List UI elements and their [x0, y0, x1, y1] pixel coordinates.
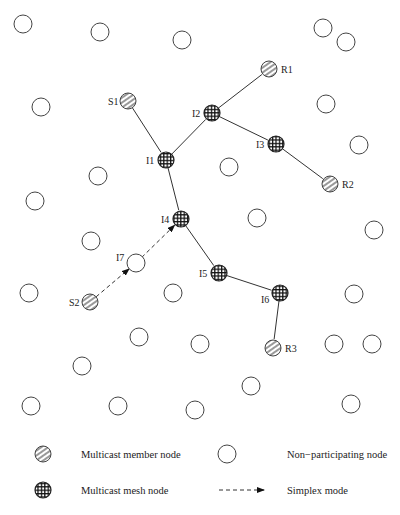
non-participating-node [22, 397, 40, 415]
simplex-edge-i7-i4 [142, 225, 175, 257]
non-participating-node [342, 395, 360, 413]
legend-item-mesh: Multicast mesh node [35, 482, 169, 498]
mesh-edge-i3-r2 [282, 149, 322, 179]
non-participating-node [337, 33, 355, 51]
non-participating-node [345, 285, 363, 303]
member-node-icon [120, 93, 136, 109]
legend-item-non-participating: Non−participating node [218, 445, 387, 463]
member-node-icon [35, 446, 51, 462]
mesh-edge-i2-r1 [218, 74, 262, 108]
simplex-edge-s2-i7 [96, 269, 129, 297]
mesh-edge-s1-i1 [132, 108, 161, 153]
member-node-icon [261, 61, 277, 77]
mesh-node-icon [211, 265, 227, 281]
legend-item-simplex: Simplex mode [219, 485, 348, 496]
mesh-edge-i2-i3 [219, 116, 268, 140]
non-participating-node [314, 19, 332, 37]
node-label: R2 [342, 179, 354, 190]
node-label: I1 [146, 155, 154, 166]
non-participating-node [220, 158, 238, 176]
node-label: I3 [256, 139, 264, 150]
node-label: S2 [69, 297, 80, 308]
node-i7: I7 [116, 252, 145, 272]
node-i5: I5 [199, 265, 227, 281]
non-participating-node [127, 254, 145, 272]
non-participating-node [130, 328, 148, 346]
node-s1: S1 [108, 93, 136, 109]
non-participating-node [164, 284, 182, 302]
node-label: R1 [281, 64, 293, 75]
mesh-edge-i6-r3 [274, 301, 279, 339]
non-participating-node [14, 15, 32, 33]
non-participating-node [32, 98, 50, 116]
non-participating-node [186, 401, 204, 419]
non-participating-node [91, 23, 109, 41]
non-participating-node [350, 136, 368, 154]
non-participating-node [82, 232, 100, 250]
mesh-node-icon [158, 152, 174, 168]
legend: Multicast member node Non−participating … [35, 445, 387, 498]
legend-label: Non−participating node [287, 449, 387, 460]
member-node-icon [265, 340, 281, 356]
non-participating-node [20, 284, 38, 302]
member-node-icon [82, 294, 98, 310]
node-i1: I1 [146, 152, 174, 168]
node-label: I2 [192, 108, 200, 119]
mesh-edge-i4-i5 [186, 226, 214, 266]
mesh-node-icon [268, 136, 284, 152]
node-label: S1 [108, 96, 119, 107]
non-participating-node [89, 167, 107, 185]
non-participating-node [242, 377, 260, 395]
mesh-node-icon [272, 285, 288, 301]
mesh-node-icon [204, 105, 220, 121]
mesh-node-icon [173, 211, 189, 227]
labeled-nodes-layer: S1R1R2S2R3I1I2I3I4I5I6I7 [69, 61, 354, 356]
non-participating-node [317, 95, 335, 113]
node-i2: I2 [192, 105, 220, 121]
non-participating-node [191, 335, 209, 353]
node-r1: R1 [261, 61, 293, 77]
legend-item-member: Multicast member node [35, 446, 181, 462]
node-r3: R3 [265, 340, 297, 356]
node-label: I7 [116, 252, 124, 263]
non-participating-node [363, 335, 381, 353]
non-participating-node [248, 209, 266, 227]
node-r2: R2 [322, 176, 354, 192]
mesh-edge-i1-i4 [168, 168, 179, 211]
non-participating-node-icon [218, 445, 236, 463]
member-node-icon [322, 176, 338, 192]
legend-label: Multicast mesh node [81, 485, 169, 496]
node-s2: S2 [69, 294, 98, 310]
non-participating-node [173, 31, 191, 49]
mesh-edge-i1-i2 [172, 119, 206, 154]
non-participating-node [109, 397, 127, 415]
mesh-node-icon [35, 482, 51, 498]
node-label: I6 [261, 294, 269, 305]
network-diagram: S1R1R2S2R3I1I2I3I4I5I6I7 Multicast membe… [0, 0, 400, 515]
non-participating-node [26, 192, 44, 210]
node-label: I4 [161, 214, 169, 225]
non-participating-nodes-layer [14, 15, 383, 419]
node-i3: I3 [256, 136, 284, 152]
node-label: I5 [199, 268, 207, 279]
non-participating-node [73, 357, 91, 375]
non-participating-node [365, 221, 383, 239]
node-label: R3 [285, 343, 297, 354]
non-participating-node [325, 335, 343, 353]
legend-label: Simplex mode [287, 485, 348, 496]
node-i4: I4 [161, 211, 189, 227]
mesh-edge-i5-i6 [227, 275, 272, 290]
legend-label: Multicast member node [81, 449, 181, 460]
